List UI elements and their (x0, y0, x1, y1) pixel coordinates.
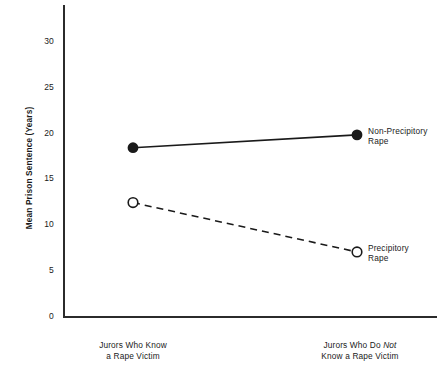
series-label-precipitory-line1: Precipitory (368, 243, 409, 254)
series-line-precipitory (133, 203, 357, 252)
data-point-non-precipitory-left (128, 142, 139, 153)
series-label-non-precipitory-line2: Rape (368, 136, 427, 147)
data-point-precipitory-right (352, 247, 362, 257)
x-tick-label-donotknow-line1-italic: Not (383, 340, 396, 350)
chart-figure: Mean Prison Sentence (Years) 0 5 10 15 2… (0, 0, 445, 376)
data-point-non-precipitory-right (352, 129, 363, 140)
plot-area (0, 0, 445, 376)
series-label-precipitory-line2: Rape (368, 253, 409, 264)
x-tick-label-donotknow: Jurors Who Do Not Know a Rape Victim (295, 340, 425, 362)
x-tick-label-donotknow-line2: Know a Rape Victim (295, 351, 425, 362)
series-label-non-precipitory: Non-Precipitory Rape (368, 126, 427, 147)
data-point-precipitory-left (128, 198, 138, 208)
x-tick-label-know-line2: a Rape Victim (73, 351, 193, 362)
x-tick-label-donotknow-line1-pre: Jurors Who Do (323, 340, 383, 350)
x-tick-label-know-line1: Jurors Who Know (73, 340, 193, 351)
x-tick-label-donotknow-line1: Jurors Who Do Not (295, 340, 425, 351)
series-label-non-precipitory-line1: Non-Precipitory (368, 126, 427, 137)
series-line-non-precipitory (133, 135, 357, 148)
x-tick-label-know: Jurors Who Know a Rape Victim (73, 340, 193, 362)
series-label-precipitory: Precipitory Rape (368, 243, 409, 264)
